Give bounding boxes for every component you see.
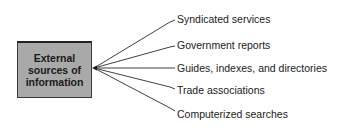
root-node-label: External sources of information xyxy=(26,52,84,88)
branch-computerized-searches: Computerized searches xyxy=(177,108,288,120)
connector-syndicated xyxy=(94,20,175,68)
connector-trade xyxy=(94,68,175,89)
branch-trade-associations: Trade associations xyxy=(177,84,265,96)
connector-government xyxy=(94,46,175,68)
branch-government-reports: Government reports xyxy=(177,39,270,51)
junction-arrow xyxy=(92,66,97,71)
connector-computerized xyxy=(94,68,175,111)
branch-syndicated-services: Syndicated services xyxy=(177,13,270,25)
branch-guides-indexes-directories: Guides, indexes, and directories xyxy=(177,62,327,74)
root-node-external-sources: External sources of information xyxy=(17,41,92,98)
